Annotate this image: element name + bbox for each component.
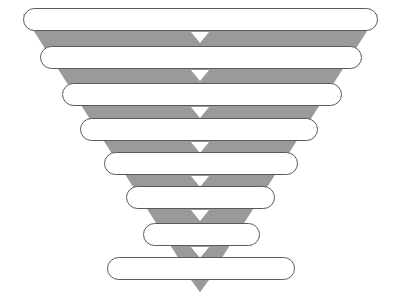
funnel-stage-1[interactable] — [23, 8, 378, 31]
funnel-apex-tip — [191, 280, 209, 292]
funnel-stage-2[interactable] — [40, 46, 362, 69]
funnel-stage-4[interactable] — [80, 118, 318, 141]
funnel-stage-3[interactable] — [62, 83, 342, 106]
funnel-stage-5[interactable] — [104, 152, 298, 175]
funnel-tip-shape — [191, 280, 209, 292]
funnel-stage-8[interactable] — [107, 257, 295, 280]
funnel-stage-6[interactable] — [126, 186, 275, 209]
funnel-stage-7[interactable] — [143, 223, 260, 246]
funnel-diagram — [0, 0, 397, 305]
